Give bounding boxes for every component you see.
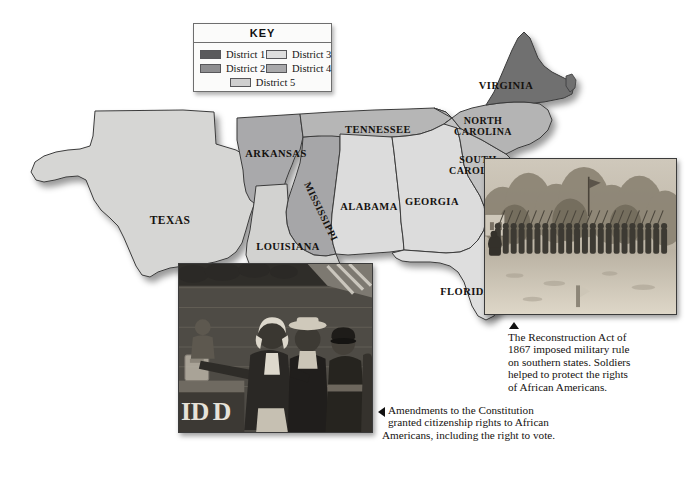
svg-text:D: D [213,397,232,426]
caption-amendments: Amendments to the Constitution granted c… [378,404,638,441]
state-label-alabama: ALABAMA [340,201,397,212]
state-label-arkansas: ARKANSAS [245,148,306,159]
legend-entry-district-1: District 1 [200,49,263,60]
caption-line: Americans, including the right to vote. [382,429,638,441]
svg-text:I: I [181,397,191,426]
state-alabama [331,134,404,255]
state-label-georgia: GEORGIA [405,196,459,207]
state-label-virginia: VIRGINIA [479,80,533,91]
caption-arrow-up-icon [509,322,519,329]
legend-label-district-4: District 4 [292,63,331,74]
legend-entry-district-5: District 5 [230,77,295,88]
legend-label-district-3: District 3 [292,49,331,60]
state-texas [31,110,258,277]
caption-arrow-left-icon [378,407,385,417]
legend-swatch-district-5 [230,78,251,87]
union-soldiers-photograph [484,158,677,315]
caption-line: of African Americans. [508,381,680,393]
state-virginia [486,32,574,105]
legend-row-2: District 2 District 4 [200,61,325,75]
legend-swatch-district-4 [266,64,287,73]
svg-text:D: D [191,397,210,426]
state-label-north-carolina-line2: CAROLINA [454,126,512,137]
voting-engraving-art: I D D [179,264,372,432]
caption-line: Amendments to the Constitution [378,404,638,416]
legend-entry-district-4: District 4 [266,63,329,74]
soldiers-photo-art [485,159,676,314]
legend-label-district-2: District 2 [226,63,265,74]
legend-swatch-district-2 [200,64,221,73]
legend-row-1: District 1 District 3 [200,47,325,61]
caption-line: granted citizenship rights to African [382,416,638,428]
map-legend: KEY District 1 District 3 District 2 [193,23,332,92]
legend-entry-district-3: District 3 [266,49,329,60]
legend-entry-district-2: District 2 [200,63,263,74]
caption-line: 1867 imposed military rule [508,343,680,355]
caption-line: on southern states. Soldiers [508,356,680,368]
caption-reconstruction-act: The Reconstruction Act of 1867 imposed m… [508,322,680,393]
state-label-north-carolina-line1: NORTH [464,115,503,126]
caption-line: The Reconstruction Act of [508,331,680,343]
legend-label-district-5: District 5 [256,77,295,88]
legend-swatch-district-3 [266,50,287,59]
caption-line: helped to protect the rights [508,368,680,380]
legend-swatch-district-1 [200,50,221,59]
legend-label-district-1: District 1 [226,49,265,60]
legend-row-3: District 5 [200,75,325,89]
african-american-voting-engraving: I D D [178,263,373,433]
map-figure: TEXAS ARKANSAS LOUISIANA MISSISSIPPI TEN… [0,0,685,480]
state-label-louisiana: LOUISIANA [256,241,320,252]
state-label-texas: TEXAS [150,214,191,226]
state-label-tennessee: TENNESSEE [345,124,411,135]
legend-title: KEY [194,24,331,43]
